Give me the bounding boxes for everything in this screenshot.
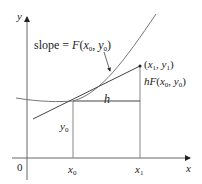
- solution-curve: [16, 14, 156, 102]
- euler-method-diagram: y x 0 x0 x1 slope = F(x0, y0) (x1, y1) h…: [0, 0, 202, 184]
- y0-label: y0: [60, 121, 68, 134]
- tangent-line: [33, 66, 140, 119]
- diagram-canvas: [0, 0, 202, 184]
- x0-tick-label: x0: [68, 164, 76, 177]
- y-axis-label: y: [17, 11, 22, 22]
- origin-label: 0: [17, 162, 23, 173]
- point-x1-y1: [139, 65, 142, 68]
- slope-leader-line: [104, 52, 110, 71]
- x1-tick-label: x1: [135, 164, 143, 177]
- x-axis-label: x: [186, 163, 191, 174]
- slope-label: slope = F(x0, y0): [34, 39, 111, 53]
- run-label: h: [104, 93, 110, 105]
- point1-label: (x1, y1): [144, 59, 174, 72]
- rise-label: hF(x0, y0): [144, 76, 186, 89]
